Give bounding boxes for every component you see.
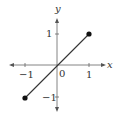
x-axis-right-arrow-icon	[101, 63, 106, 67]
y-axis-label: y	[54, 3, 61, 14]
x-tick-label-neg1: −1	[19, 69, 34, 80]
y-tick-label-1: 1	[46, 28, 52, 39]
x-tick-label-1: 1	[86, 69, 92, 80]
endpoint-neg1-neg1	[22, 95, 27, 100]
y-tick-label-neg1: −1	[42, 92, 57, 103]
x-axis-label: x	[107, 59, 113, 70]
origin-label: 0	[59, 68, 65, 79]
y-axis-top-arrow-icon	[55, 18, 59, 23]
x-axis-left-arrow-icon	[9, 63, 14, 67]
endpoint-1-1	[86, 31, 91, 36]
y-axis-bottom-arrow-icon	[55, 107, 59, 112]
function-graph: x y 0 −1 1 1 −1	[0, 0, 117, 114]
